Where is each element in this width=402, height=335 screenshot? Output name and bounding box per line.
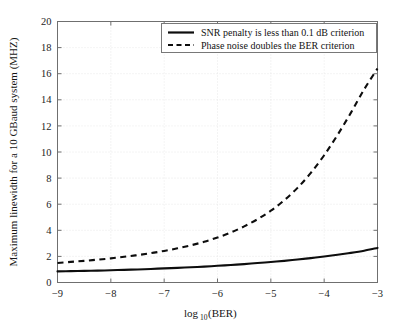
chart-canvas: 02468101214161820 −9−8−7−6−5−4−3 Maximum… — [0, 0, 402, 335]
legend-label-0: SNR penalty is less than 0.1 dB criterio… — [201, 27, 364, 38]
x-axis-title-subscript: 10 — [200, 313, 208, 322]
x-tick-label: −6 — [212, 288, 223, 299]
x-tick-label: −9 — [52, 288, 63, 299]
x-tick-labels: −9−8−7−6−5−4−3 — [52, 288, 383, 299]
chart-legend: SNR penalty is less than 0.1 dB criterio… — [162, 24, 377, 53]
y-tick-label: 12 — [41, 121, 52, 132]
y-tick-label: 16 — [41, 68, 52, 79]
x-tick-label: −5 — [265, 288, 276, 299]
y-tick-label: 14 — [41, 94, 52, 105]
y-tick-labels: 02468101214161820 — [41, 16, 52, 288]
y-tick-label: 2 — [46, 251, 51, 262]
chart-figure: 02468101214161820 −9−8−7−6−5−4−3 Maximum… — [0, 0, 402, 335]
y-tick-label: 8 — [46, 173, 51, 184]
y-tick-label: 20 — [41, 16, 52, 27]
y-tick-label: 0 — [46, 277, 51, 288]
x-tick-label: −7 — [159, 288, 170, 299]
x-axis-title: log 10 (BER) — [184, 307, 237, 322]
y-tick-label: 4 — [46, 225, 52, 236]
x-axis-title-tail: (BER) — [208, 307, 237, 320]
legend-label-1: Phase noise doubles the BER criterion — [201, 40, 355, 51]
gridlines — [58, 22, 378, 283]
x-tick-label: −3 — [372, 288, 383, 299]
x-tick-label: −4 — [319, 288, 331, 299]
y-tick-label: 18 — [41, 42, 52, 53]
y-axis-title: Maximum linewidth for a 10 GBaud system … — [7, 37, 20, 266]
x-tick-label: −8 — [105, 288, 116, 299]
x-axis-title-main: log — [184, 307, 199, 319]
y-tick-label: 10 — [41, 147, 52, 158]
y-tick-label: 6 — [46, 199, 51, 210]
